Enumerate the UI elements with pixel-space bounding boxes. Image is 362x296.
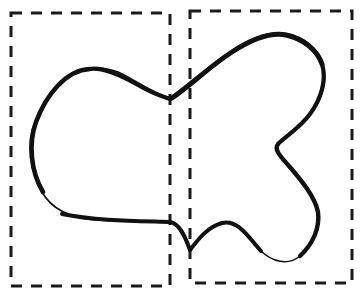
- figure-canvas: [0, 0, 362, 296]
- figure-container: Closed curve overlapping two dashed rect…: [0, 0, 362, 296]
